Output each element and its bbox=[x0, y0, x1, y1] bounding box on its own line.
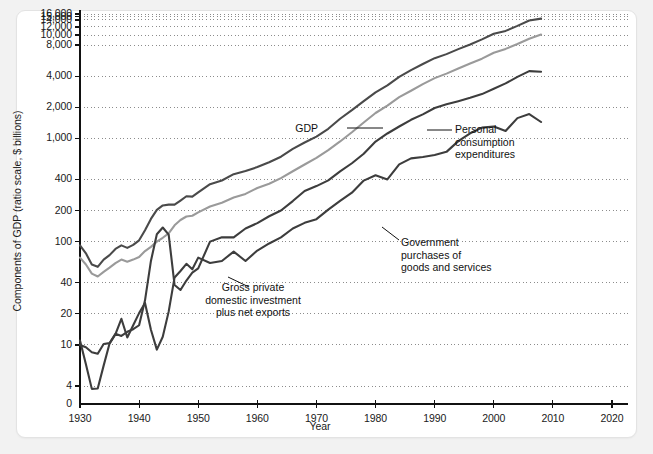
chart-plot-area: 16,00015,00014,00012,00010,0008,0004,000… bbox=[0, 0, 653, 454]
y-axis-tick-label: 4,000 bbox=[10, 70, 72, 81]
y-axis-tick-label: 10 bbox=[10, 339, 72, 350]
annotation-gdp: GDP bbox=[198, 122, 318, 135]
series-group bbox=[80, 19, 541, 389]
annotation-gpdi: Gross private domestic investment plus n… bbox=[183, 281, 323, 319]
chart-svg bbox=[0, 0, 653, 454]
annotation-gov: Government purchases of goods and servic… bbox=[401, 236, 491, 274]
annotation-leader-gov bbox=[382, 227, 399, 240]
x-axis-tick-label: 2000 bbox=[469, 412, 519, 424]
x-axis-tick-label: 1940 bbox=[114, 412, 164, 424]
x-axis-tick-label: 1930 bbox=[55, 412, 105, 424]
x-axis-tick-label: 2020 bbox=[587, 412, 637, 424]
screenshot-root: 16,00015,00014,00012,00010,0008,0004,000… bbox=[0, 0, 653, 454]
x-axis-title: Year bbox=[260, 420, 380, 432]
x-axis-tick-label: 1950 bbox=[173, 412, 223, 424]
gridlines-group bbox=[80, 14, 628, 386]
y-axis-tick-label: 4 bbox=[10, 380, 72, 391]
y-axis-tick-label: 8,000 bbox=[10, 39, 72, 50]
x-axis-tick-label: 1990 bbox=[410, 412, 460, 424]
x-axis-tick-label: 2010 bbox=[528, 412, 578, 424]
y-axis-tick-label: 0 bbox=[10, 398, 72, 409]
annotation-pce: Personal consumption expenditures bbox=[455, 123, 515, 161]
y-axis-title: Components of GDP (ratio scale, $ billio… bbox=[11, 101, 23, 321]
